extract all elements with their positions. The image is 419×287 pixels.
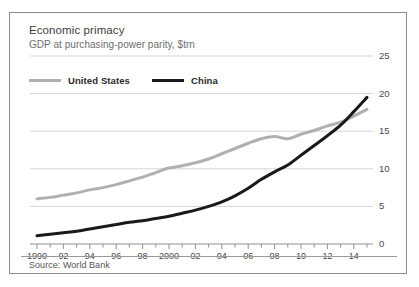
series-line-united-states: [37, 109, 367, 198]
y-axis-tick-label: 20: [379, 88, 401, 99]
y-axis-tick-label: 25: [379, 50, 401, 61]
plot-area: 0510152025 19909294969820000204060810121…: [10, 13, 408, 275]
chart-source: Source: World Bank: [29, 260, 110, 270]
gridlines: [30, 56, 373, 244]
y-axis-tick-label: 10: [379, 163, 401, 174]
y-axis-tick-label: 0: [379, 238, 401, 249]
footer-divider: [21, 256, 397, 257]
chart-svg: [10, 13, 408, 275]
y-axis-tick-label: 15: [379, 125, 401, 136]
series-line-china: [37, 97, 367, 235]
x-axis-ticks: [37, 244, 367, 249]
y-axis-tick-label: 5: [379, 200, 401, 211]
chart-card: Economic primacy GDP at purchasing-power…: [9, 12, 407, 274]
